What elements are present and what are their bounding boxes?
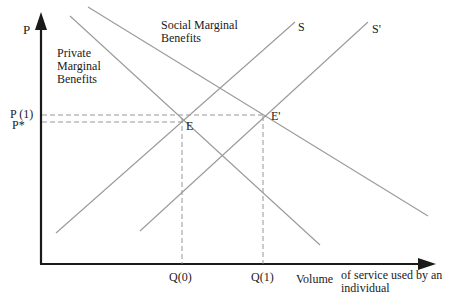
equilibrium-shifted-label: E' [271, 110, 281, 123]
price-tick-pstar: P* [12, 119, 25, 132]
social-marginal-benefits-curve [88, 7, 428, 216]
x-axis-label-volume: Volume [296, 273, 333, 286]
equilibrium-label: E [186, 120, 193, 133]
private-mb-line3: Benefits [57, 73, 101, 86]
y-axis-arrow-icon [35, 12, 47, 30]
x-axis-label-line2: individual [341, 282, 442, 295]
quantity-tick-q0: Q(0) [169, 271, 192, 284]
supply-curve-s-prime [140, 22, 368, 231]
social-mb-label: Social Marginal Benefits [161, 19, 238, 45]
supply-shifted-label: S' [372, 23, 381, 36]
supply-label: S [298, 21, 305, 34]
social-mb-line2: Benefits [161, 32, 238, 45]
private-marginal-benefits-curve [70, 16, 320, 245]
quantity-tick-q1: Q(1) [251, 271, 274, 284]
x-axis-label-desc: of service used by an individual [341, 269, 442, 295]
y-axis-label: P [23, 23, 30, 36]
private-mb-label: Private Marginal Benefits [57, 47, 101, 86]
